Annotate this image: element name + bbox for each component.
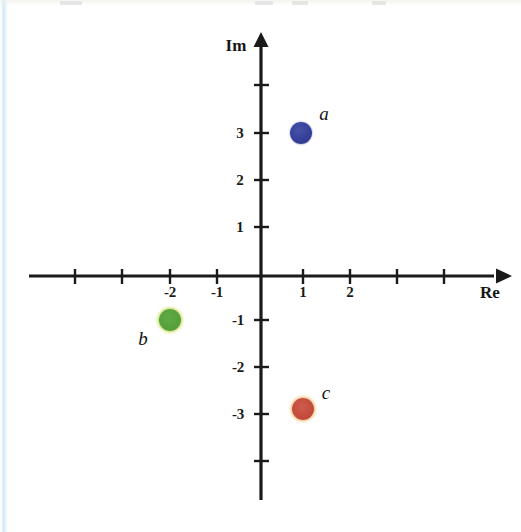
y-tick-label--3: -3 [232, 406, 244, 423]
x-tick-label--1: -1 [211, 284, 223, 301]
data-point-label-c: c [322, 382, 330, 404]
x-tick-label--2: -2 [164, 284, 176, 301]
y-tick-label-1: 1 [236, 219, 243, 236]
x-tick-label-1: 1 [299, 284, 306, 301]
data-point-b[interactable] [159, 309, 181, 331]
y-tick-label--1: -1 [232, 312, 244, 329]
data-point-a[interactable] [290, 122, 312, 144]
y-tick-label-3: 3 [236, 125, 243, 142]
y-tick-label-2: 2 [236, 172, 243, 189]
complex-plane-figure: Im Re -2 -1 1 2 3 2 1 -1 -2 -3 a b c [0, 0, 521, 532]
axes-svg [0, 0, 521, 532]
imaginary-axis-label: Im [226, 36, 247, 56]
x-tick-label-2: 2 [346, 284, 353, 301]
real-axis-arrowhead [496, 269, 512, 284]
imaginary-axis-arrowhead [254, 32, 269, 47]
data-point-label-a: a [319, 103, 329, 125]
real-axis-label: Re [480, 283, 500, 303]
plot-area: Im Re -2 -1 1 2 3 2 1 -1 -2 -3 a b c [0, 0, 521, 532]
data-point-label-b: b [138, 328, 148, 350]
y-tick-label--2: -2 [232, 359, 244, 376]
data-point-c[interactable] [292, 398, 314, 420]
